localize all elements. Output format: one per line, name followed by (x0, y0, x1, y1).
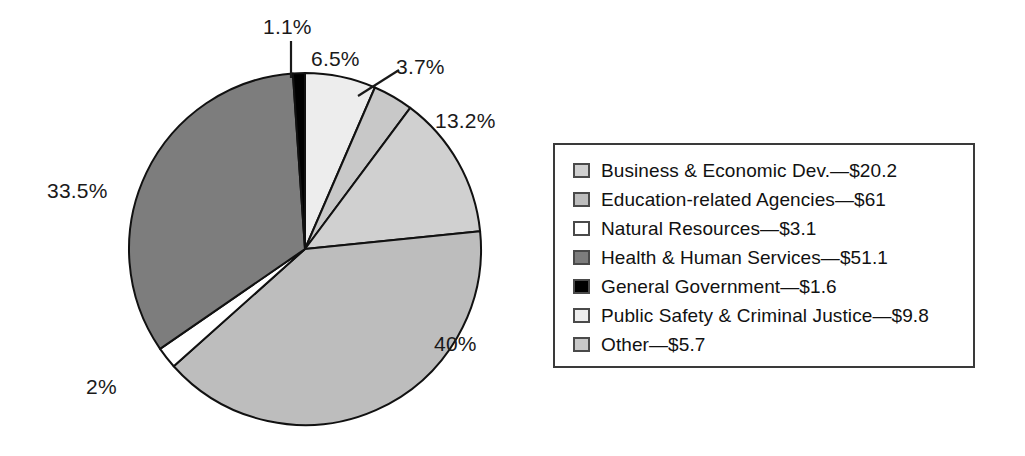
legend-item: Business & Economic Dev.—$20.2 (573, 156, 965, 185)
pie-label-education: 40% (434, 333, 477, 354)
legend-item-label: Education-related Agencies—$61 (601, 190, 886, 209)
pie-label-health-human-services: 33.5% (47, 180, 108, 201)
legend-item-label: General Government—$1.6 (601, 277, 837, 296)
legend: Business & Economic Dev.—$20.2Education-… (553, 143, 975, 368)
legend-swatch (573, 250, 590, 265)
pie-label-business-economic-dev: 13.2% (435, 110, 496, 131)
pie-label-other: 3.7% (396, 56, 445, 77)
legend-item-list: Business & Economic Dev.—$20.2Education-… (573, 156, 965, 359)
legend-item-label: Business & Economic Dev.—$20.2 (601, 161, 897, 180)
legend-swatch (573, 221, 590, 236)
pie-chart-figure: 1.1% 6.5% 3.7% 13.2% 40% 2% 33.5% Busine… (0, 0, 1025, 456)
legend-swatch (573, 163, 590, 178)
legend-swatch (573, 279, 590, 294)
legend-item: Health & Human Services—$51.1 (573, 243, 965, 272)
legend-item-label: Health & Human Services—$51.1 (601, 248, 888, 267)
legend-item-label: Natural Resources—$3.1 (601, 219, 817, 238)
pie-slice-group (129, 73, 481, 425)
legend-swatch (573, 308, 590, 323)
legend-item: Public Safety & Criminal Justice—$9.8 (573, 301, 965, 330)
legend-item: Other—$5.7 (573, 330, 965, 359)
legend-swatch (573, 192, 590, 207)
legend-item-label: Public Safety & Criminal Justice—$9.8 (601, 306, 929, 325)
pie-label-natural-resources: 2% (86, 376, 117, 397)
pie-label-public-safety: 6.5% (311, 48, 360, 69)
legend-item: Education-related Agencies—$61 (573, 185, 965, 214)
legend-item: Natural Resources—$3.1 (573, 214, 965, 243)
pie-graphic: 1.1% 6.5% 3.7% 13.2% 40% 2% 33.5% (0, 0, 520, 456)
legend-swatch (573, 337, 590, 352)
pie-label-general-government: 1.1% (263, 16, 312, 37)
legend-item-label: Other—$5.7 (601, 335, 706, 354)
legend-item: General Government—$1.6 (573, 272, 965, 301)
